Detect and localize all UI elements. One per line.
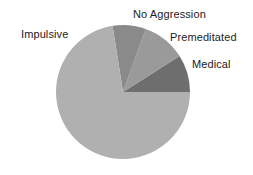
label-no-aggression: No Aggression [133,9,206,20]
pie-chart [0,0,253,175]
label-medical: Medical [192,59,231,70]
label-premeditated: Premeditated [170,32,237,43]
label-impulsive: Impulsive [21,29,68,40]
